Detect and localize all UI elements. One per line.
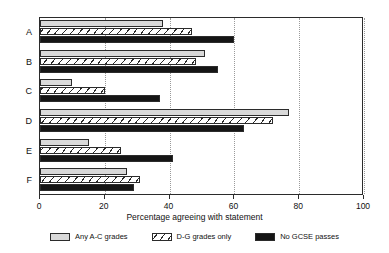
bar-c-series-2 <box>40 87 105 94</box>
legend-entry-2[interactable]: D-G grades only <box>152 232 232 241</box>
bar-group-e <box>40 137 362 167</box>
bar-f-series-2 <box>40 176 140 183</box>
bar-b-series-1 <box>40 50 205 57</box>
x-tick-mark-100 <box>363 195 364 199</box>
hatched-swatch <box>152 233 172 241</box>
bar-e-series-1 <box>40 139 89 146</box>
x-axis-title: Percentage agreeing with statement <box>0 212 389 222</box>
y-tick-label-d: D <box>2 116 32 126</box>
black-swatch <box>255 233 275 241</box>
x-tick-mark-80 <box>298 195 299 199</box>
legend-entry-1[interactable]: Any A-C grades <box>50 232 128 241</box>
plot-area <box>39 17 363 195</box>
bar-chart-figure: ABCDEF 020406080100 Percentage agreeing … <box>0 0 389 253</box>
x-tick-mark-0 <box>39 195 40 199</box>
bar-d-series-3 <box>40 125 244 132</box>
legend-label-1: Any A-C grades <box>75 232 128 241</box>
x-tick-mark-20 <box>104 195 105 199</box>
bar-f-series-1 <box>40 168 127 175</box>
light-grey-swatch <box>50 233 70 241</box>
y-tick-label-b: B <box>2 57 32 67</box>
bar-group-f <box>40 166 362 196</box>
y-tick-label-f: F <box>2 175 32 185</box>
x-tick-mark-60 <box>233 195 234 199</box>
x-tick-label-20: 20 <box>84 201 124 211</box>
x-tick-label-60: 60 <box>213 201 253 211</box>
bar-e-series-3 <box>40 155 173 162</box>
bar-group-c <box>40 77 362 107</box>
x-tick-label-80: 80 <box>278 201 318 211</box>
bar-b-series-2 <box>40 58 196 65</box>
bar-group-d <box>40 107 362 137</box>
x-tick-label-40: 40 <box>149 201 189 211</box>
x-tick-mark-40 <box>169 195 170 199</box>
bar-d-series-1 <box>40 109 289 116</box>
bar-group-a <box>40 18 362 48</box>
bar-d-series-2 <box>40 117 273 124</box>
bar-f-series-3 <box>40 184 134 191</box>
y-tick-label-c: C <box>2 86 32 96</box>
bar-c-series-1 <box>40 79 72 86</box>
bar-a-series-1 <box>40 20 163 27</box>
bar-group-b <box>40 48 362 78</box>
y-tick-label-e: E <box>2 146 32 156</box>
gridline-x-100 <box>364 18 365 194</box>
chart-legend: Any A-C gradesD-G grades onlyNo GCSE pas… <box>0 232 389 241</box>
bar-a-series-3 <box>40 36 234 43</box>
bar-b-series-3 <box>40 66 218 73</box>
x-tick-label-100: 100 <box>343 201 383 211</box>
bar-c-series-3 <box>40 95 160 102</box>
legend-label-2: D-G grades only <box>177 232 232 241</box>
bar-a-series-2 <box>40 28 192 35</box>
bar-e-series-2 <box>40 147 121 154</box>
y-tick-label-a: A <box>2 27 32 37</box>
x-tick-label-0: 0 <box>19 201 59 211</box>
legend-entry-3[interactable]: No GCSE passes <box>255 232 339 241</box>
legend-label-3: No GCSE passes <box>280 232 339 241</box>
